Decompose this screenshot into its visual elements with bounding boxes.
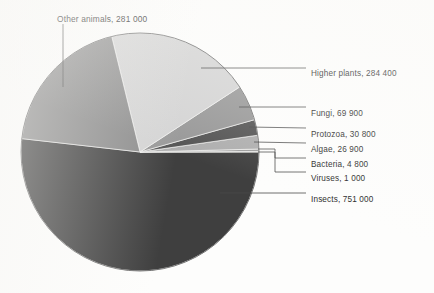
leader-line-algae bbox=[254, 142, 306, 143]
callout-label-viruses: Viruses, 1 000 bbox=[311, 175, 365, 183]
callout-label-other-animals: Other animals, 281 000 bbox=[57, 15, 147, 23]
callout-label-bacteria: Bacteria, 4 800 bbox=[311, 161, 368, 169]
leader-line-bacteria bbox=[258, 149, 306, 158]
callout-label-higher-plants: Higher plants, 284 400 bbox=[311, 70, 397, 78]
pie-slice-group bbox=[21, 33, 259, 271]
callout-label-algae: Algae, 26 900 bbox=[311, 146, 363, 154]
callout-label-protozoa: Protozoa, 30 800 bbox=[311, 131, 376, 139]
callout-label-insects: Insects, 751 000 bbox=[311, 196, 373, 204]
callout-label-fungi: Fungi, 69 900 bbox=[311, 110, 363, 118]
pie-chart-figure: Insects, 751 000Viruses, 1 000Bacteria, … bbox=[0, 0, 434, 293]
leader-line-protozoa bbox=[249, 127, 306, 128]
pie-chart-canvas bbox=[0, 0, 434, 293]
leader-line-viruses bbox=[258, 152, 306, 172]
pie-slice-insects[interactable] bbox=[21, 139, 259, 271]
